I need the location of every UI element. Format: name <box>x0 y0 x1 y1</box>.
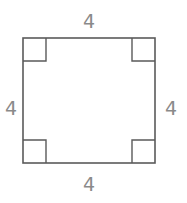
geometry-figure: 4 4 4 4 <box>0 0 187 203</box>
side-label-top: 4 <box>83 10 95 32</box>
side-label-left: 4 <box>5 97 17 119</box>
figure-canvas: 4 4 4 4 <box>0 0 187 203</box>
side-label-right: 4 <box>165 97 177 119</box>
side-label-bottom: 4 <box>83 173 95 195</box>
